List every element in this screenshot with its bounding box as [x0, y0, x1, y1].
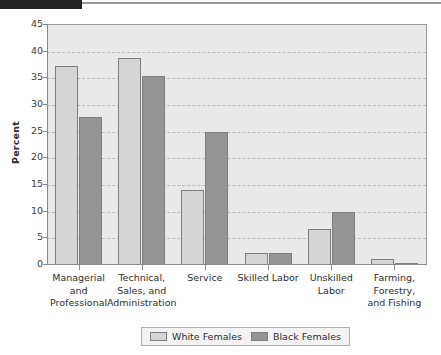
y-tick-mark — [43, 51, 48, 52]
x-axis-line — [47, 264, 427, 265]
gridline — [47, 238, 426, 239]
y-tick-mark — [43, 211, 48, 212]
gridline — [47, 158, 426, 159]
gridline — [47, 105, 426, 106]
y-tick-mark — [43, 131, 48, 132]
y-tick-label: 5 — [19, 233, 43, 243]
top-black-rule — [0, 0, 82, 9]
chart-legend: White FemalesBlack Females — [141, 327, 350, 346]
y-tick-label: 20 — [19, 153, 43, 163]
y-tick-mark — [43, 264, 48, 265]
y-tick-label: 15 — [19, 179, 43, 189]
y-tick-mark — [43, 157, 48, 158]
y-tick-mark — [43, 24, 48, 25]
gridline — [47, 78, 426, 79]
bar-group — [308, 25, 355, 265]
bar-group — [181, 25, 228, 265]
bar-black-females[interactable] — [205, 132, 228, 265]
bar-group — [371, 25, 418, 265]
bar-white-females[interactable] — [55, 66, 78, 265]
x-tick-mark — [142, 265, 143, 270]
x-tick-mark — [268, 265, 269, 270]
bar-chart-figure: Percent 051015202530354045 Managerial an… — [0, 9, 441, 355]
legend-entry[interactable]: White Females — [150, 331, 242, 342]
legend-label: White Females — [172, 331, 242, 342]
legend-entry[interactable]: Black Females — [251, 331, 341, 342]
x-tick-mark — [331, 265, 332, 270]
bar-group — [118, 25, 165, 265]
legend-swatch-icon — [251, 332, 268, 341]
gridline — [47, 132, 426, 133]
x-tick-mark — [205, 265, 206, 270]
top-gray-rule — [82, 2, 441, 4]
gridline — [47, 52, 426, 53]
bar-group — [245, 25, 292, 265]
bar-white-females[interactable] — [181, 190, 204, 265]
bar-white-females[interactable] — [308, 229, 331, 265]
x-tick-mark — [394, 265, 395, 270]
legend-label: Black Females — [273, 331, 341, 342]
bar-white-females[interactable] — [118, 58, 141, 265]
y-tick-label: 10 — [19, 206, 43, 216]
y-tick-label: 35 — [19, 73, 43, 83]
y-tick-mark — [43, 77, 48, 78]
plot-area — [47, 24, 427, 265]
y-axis-line — [47, 24, 48, 265]
x-axis-category-label: Farming, Forestry, and Fishing — [354, 272, 435, 310]
y-tick-mark — [43, 237, 48, 238]
y-tick-label: 45 — [19, 19, 43, 29]
y-tick-mark — [43, 104, 48, 105]
y-tick-label: 30 — [19, 99, 43, 109]
y-tick-mark — [43, 184, 48, 185]
x-tick-mark — [79, 265, 80, 270]
legend-swatch-icon — [150, 332, 167, 341]
y-tick-label: 40 — [19, 46, 43, 56]
bar-black-females[interactable] — [79, 117, 102, 265]
bar-black-females[interactable] — [142, 76, 165, 265]
y-tick-label: 0 — [19, 259, 43, 269]
bar-black-females[interactable] — [332, 212, 355, 265]
gridline — [47, 212, 426, 213]
y-tick-label: 25 — [19, 126, 43, 136]
bar-group — [55, 25, 102, 265]
gridline — [47, 185, 426, 186]
y-axis-ticks: 051015202530354045 — [12, 24, 43, 265]
